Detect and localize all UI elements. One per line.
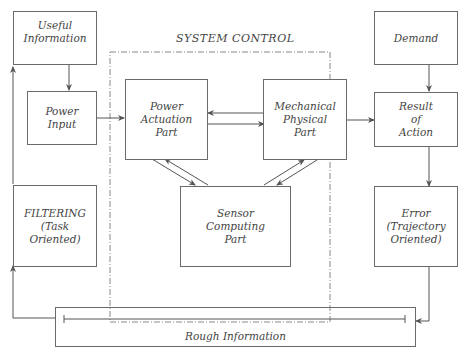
arrow-sensor-to-mechanical: [264, 160, 304, 185]
sensor-computing-box: Sensor Computing Part: [180, 186, 291, 267]
arrow-actuation-to-sensor: [152, 159, 195, 185]
rough-information-box: Rough Information: [55, 307, 416, 347]
error-box: Error (Trajectory Oriented): [374, 186, 458, 267]
demand-label: Demand: [394, 32, 438, 45]
arrow-error-to-rough: [416, 267, 429, 321]
result-of-action-box: Result of Action: [374, 92, 458, 147]
result-of-action-label: Result of Action: [399, 100, 433, 139]
power-actuation-box: Power Actuation Part: [125, 79, 208, 160]
arrow-rough-to-filtering: [13, 266, 55, 318]
system-control-title: SYSTEM CONTROL: [176, 32, 294, 45]
arrow-mechanical-to-sensor: [277, 160, 317, 185]
filtering-box: FILTERING (Task Oriented): [13, 185, 97, 267]
useful-information-label: Useful Information: [23, 19, 86, 45]
error-label: Error (Trajectory Oriented): [386, 207, 445, 246]
arrow-sensor-to-actuation: [165, 159, 208, 185]
power-input-box: Power Input: [27, 91, 97, 145]
system-control-diagram: SYSTEM CONTROL Useful Information Power …: [0, 0, 467, 357]
demand-box: Demand: [374, 11, 458, 65]
mechanical-physical-label: Mechanical Physical Part: [274, 100, 336, 139]
useful-information-box: Useful Information: [13, 11, 97, 65]
sensor-computing-label: Sensor Computing Part: [206, 207, 265, 246]
power-actuation-label: Power Actuation Part: [141, 100, 192, 139]
rough-information-label: Rough Information: [185, 330, 286, 343]
filtering-label: FILTERING (Task Oriented): [24, 207, 86, 246]
power-input-label: Power Input: [45, 105, 78, 131]
mechanical-physical-box: Mechanical Physical Part: [263, 79, 347, 160]
